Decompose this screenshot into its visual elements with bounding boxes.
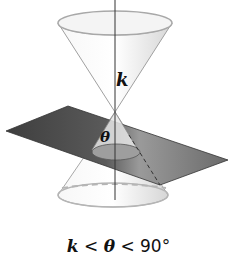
caption-less-than-2: < — [115, 236, 140, 256]
caption-value: 90° — [140, 236, 170, 256]
section-ellipse — [92, 144, 140, 160]
double-cone-diagram: k θ — [0, 0, 237, 230]
caption-less-than: < — [79, 236, 104, 256]
caption-var-theta: θ — [104, 236, 115, 256]
plane-angle-label: θ — [100, 128, 110, 146]
angle-condition-caption: k < θ < 90° — [0, 236, 237, 256]
caption-var-k: k — [67, 236, 79, 256]
cone-angle-label: k — [116, 69, 128, 90]
